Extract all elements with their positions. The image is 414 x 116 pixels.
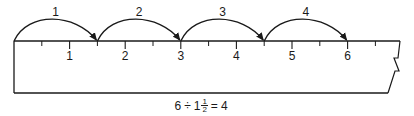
jump-label: 3 <box>219 5 226 19</box>
divisor-whole: 1 <box>194 99 201 113</box>
equation-operator: ÷ <box>184 99 191 113</box>
tick-label: 6 <box>344 49 351 63</box>
jump-label: 4 <box>303 5 310 19</box>
jump-arc <box>97 19 179 41</box>
divisor-fraction: 1 2 <box>201 98 207 113</box>
jump-label: 1 <box>52 5 59 19</box>
equation-result: 4 <box>221 99 228 113</box>
equation-divisor: 1 1 2 <box>194 98 208 113</box>
jump-arc <box>264 19 346 41</box>
tick-label: 1 <box>66 49 73 63</box>
jump-arc <box>181 19 263 41</box>
equation-dividend: 6 <box>174 99 181 113</box>
tick-label: 2 <box>122 49 129 63</box>
torn-edge-zigzag <box>388 41 400 93</box>
jump-arc <box>14 19 96 41</box>
tick-label: 5 <box>289 49 296 63</box>
equation-equals: = <box>211 99 218 113</box>
tick-label: 4 <box>233 49 240 63</box>
equation: 6 ÷ 1 1 2 = 4 <box>0 98 414 113</box>
jump-label: 2 <box>136 5 143 19</box>
fraction-denominator: 2 <box>202 106 206 113</box>
tick-label: 3 <box>177 49 184 63</box>
